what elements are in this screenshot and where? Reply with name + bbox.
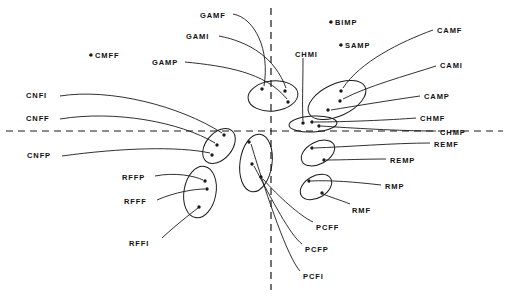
cluster-ellipse-pcf [236,132,276,194]
cluster-ellipse-cnf [196,122,242,169]
data-point-chmf-pt [310,120,313,123]
label-pcff: PCFF [316,224,339,232]
diagram-canvas [0,0,509,301]
data-point-camp-pt [326,108,329,111]
cluster-ellipse-cam [302,72,372,127]
data-point-rffi-pt [197,205,200,208]
label-gamp: GAMP [152,59,178,67]
label-cnff: CNFF [26,115,50,123]
REMF-leader [314,143,430,148]
CNFP-leader [62,149,210,156]
label-cnfp: CNFP [27,152,51,160]
GAMF-leader [233,14,265,86]
label-chmf: CHMF [420,115,445,123]
data-point-rmp-pt [307,179,310,182]
cluster-ellipse-gam [247,78,300,113]
CAMI-leader [343,66,436,99]
data-point-rffp-pt [203,179,206,182]
CAMF-leader [343,30,433,88]
data-point-gamp-pt [286,100,289,103]
label-chmi: CHMI [295,51,318,59]
label-remp: REMP [390,157,415,165]
data-point-cnfi-pt [222,133,225,136]
data-point-cnff-pt [215,143,218,146]
RFFP-leader [155,174,203,180]
label-cmff: CMFF [89,52,119,60]
label-rfff: RFFF [124,198,147,206]
data-point-chmp-pt [317,124,320,127]
label-gami: GAMI [186,33,209,41]
label-cnfi: CNFI [26,92,47,100]
label-pcfi: PCFI [303,273,324,281]
data-point-camf-pt [339,89,342,92]
data-point-chmi-pt [301,121,304,124]
label-gamf: GAMF [200,12,226,20]
label-chmp: CHMP [440,129,466,137]
data-point-rfff-pt [205,187,208,190]
label-samp: SAMP [339,42,370,50]
data-point-remf-pt [310,146,313,149]
label-rmf: RMF [352,207,371,215]
cluster-diagram: GAMFGAMIGAMPCMFFBIMPSAMPCHMICAMFCAMICAMP… [0,0,509,301]
data-point-gamf-pt [260,87,263,90]
label-camf: CAMF [437,27,462,35]
RMF-leader [323,194,350,204]
GAMP-leader [185,62,287,99]
RMP-leader [311,181,381,185]
label-rffp: RFFP [122,174,145,182]
data-point-gami-pt [283,89,286,92]
label-pcfp: PCFP [305,246,329,254]
label-bimp: BIMP [329,19,357,27]
GAMI-leader [219,36,286,88]
CNFI-leader [60,94,222,133]
data-point-remp-pt [322,158,325,161]
cluster-ellipse-rem [297,135,339,171]
data-point-pcfp-pt [250,162,253,165]
data-point-rmf-pt [320,191,323,194]
label-remf: REMF [434,141,459,149]
cluster-ellipse-rff [180,164,221,221]
label-rmp: RMP [385,183,404,191]
RFFF-leader [157,189,205,200]
data-point-pcff-pt [247,140,250,143]
REMP-leader [326,159,386,160]
label-rffi: RFFI [129,240,149,248]
label-camp: CAMP [424,93,450,101]
data-point-cnfp-pt [210,153,213,156]
CNFF-leader [60,116,215,143]
CHMP-leader [321,126,436,131]
label-cami: CAMI [440,62,463,70]
data-point-cami-pt [338,99,341,102]
axes-group [6,8,503,290]
cluster-ellipse-rm [296,169,336,205]
RFFI-leader [162,208,198,238]
data-point-pcfi-pt [259,175,262,178]
